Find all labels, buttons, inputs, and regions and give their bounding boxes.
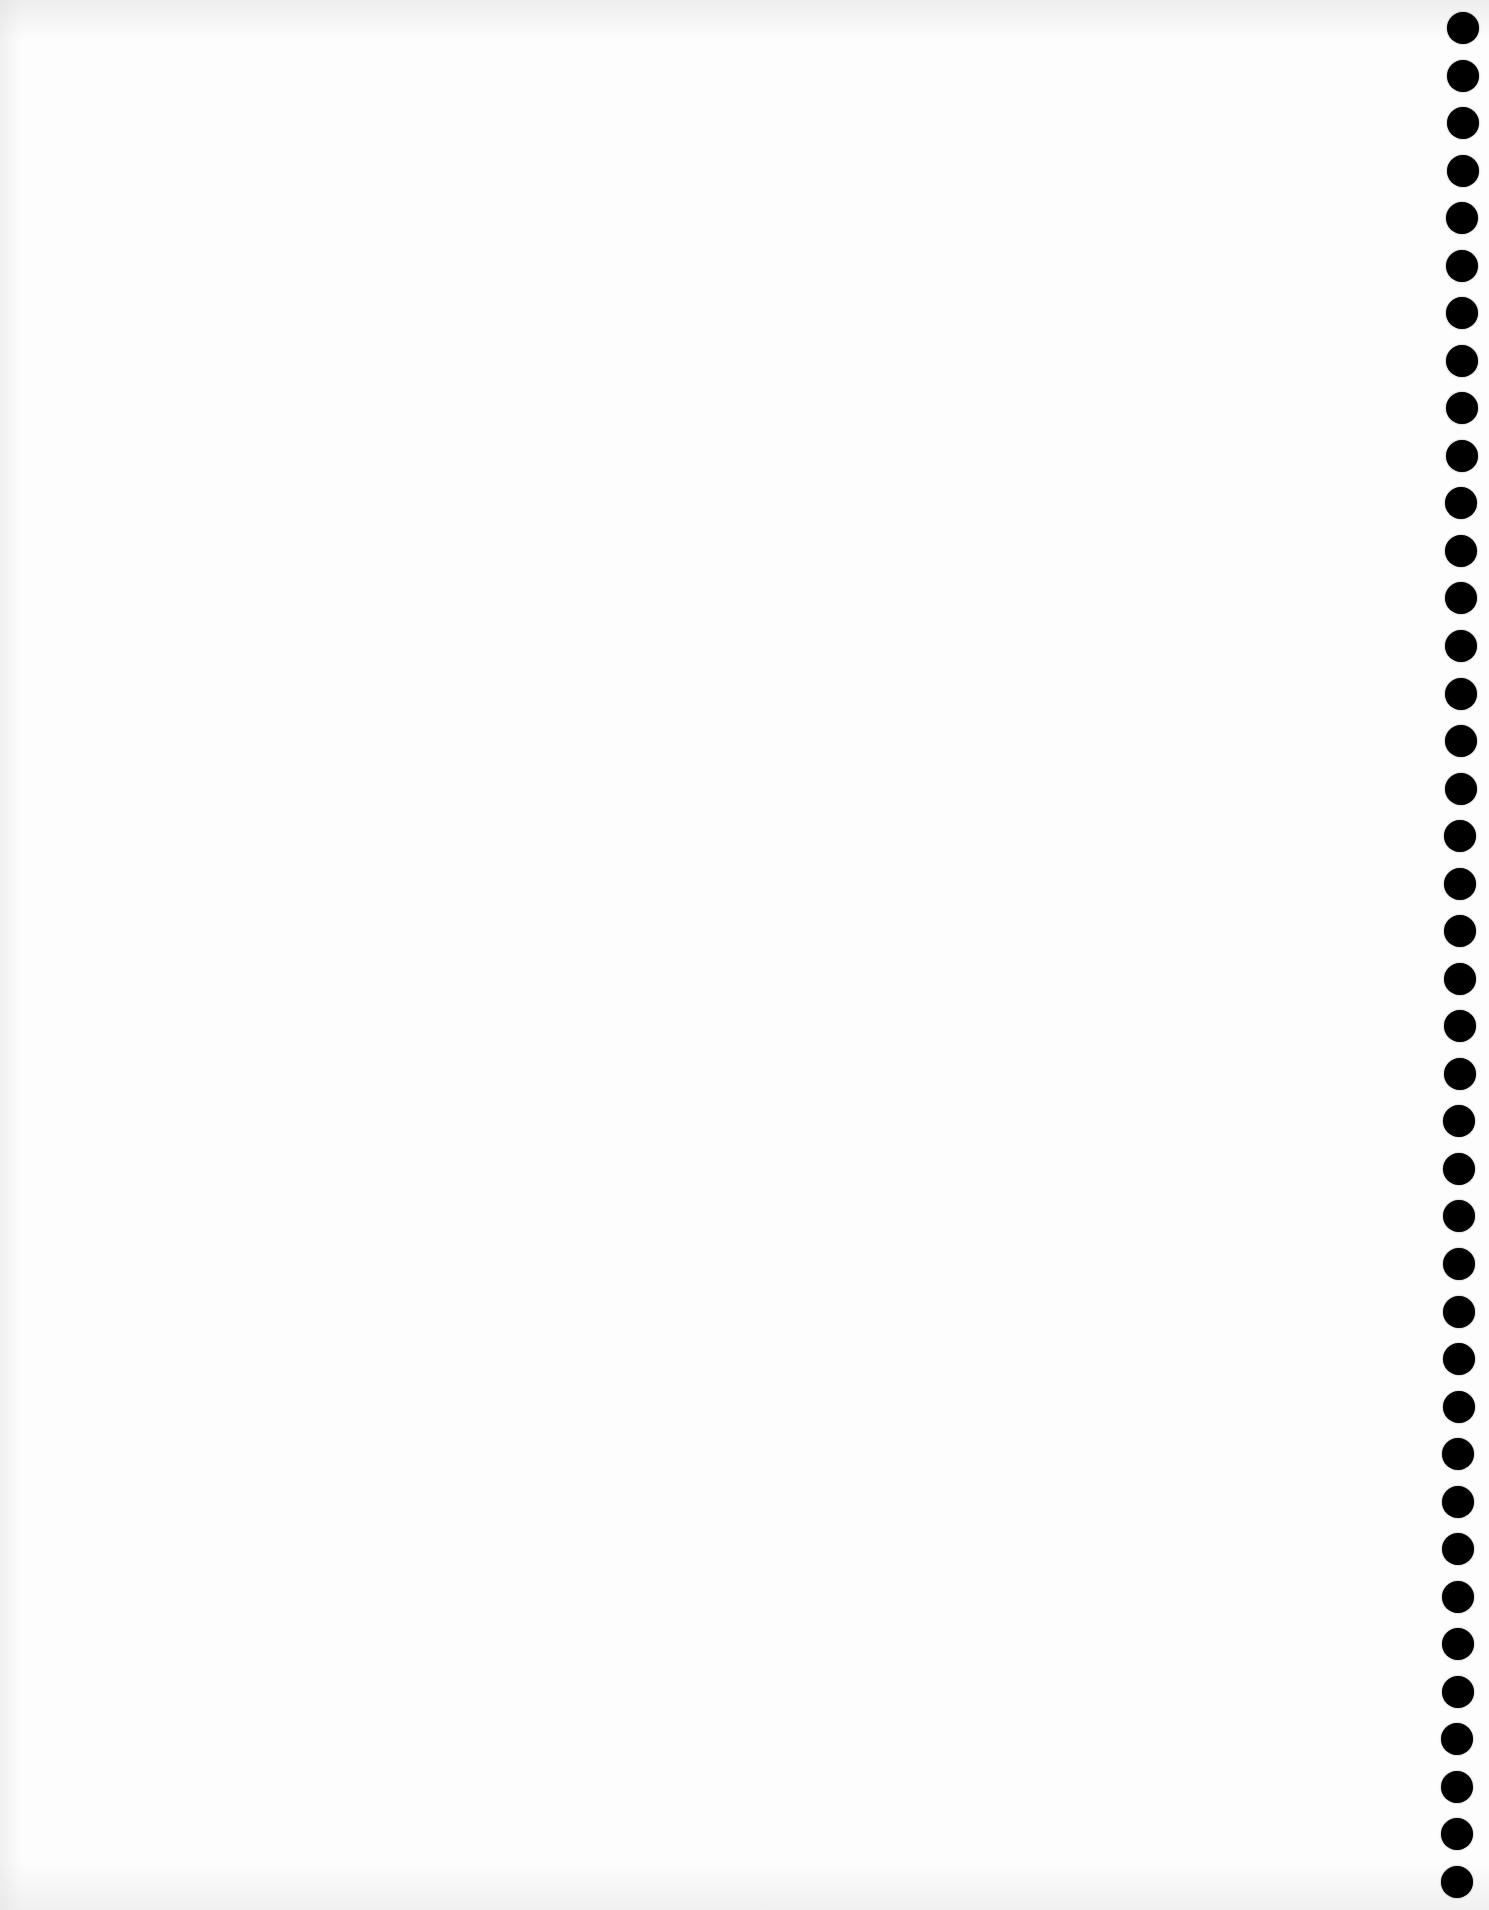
punch-hole [1445,725,1477,757]
punch-hole [1447,107,1479,139]
punch-hole [1446,345,1478,377]
punch-hole [1446,202,1478,234]
punch-hole [1443,1105,1475,1137]
blank-scanned-page [0,0,1489,1910]
punch-hole [1443,1296,1475,1328]
punch-hole-strip [1429,0,1489,1910]
punch-hole [1443,1391,1475,1423]
punch-hole [1445,630,1477,662]
punch-hole [1442,1533,1474,1565]
punch-hole [1441,1723,1473,1755]
punch-hole [1442,1581,1474,1613]
punch-hole [1443,1343,1475,1375]
punch-hole [1446,250,1478,282]
punch-hole [1445,773,1477,805]
punch-hole [1444,915,1476,947]
punch-hole [1445,535,1477,567]
punch-hole [1441,1866,1473,1898]
punch-hole [1444,963,1476,995]
punch-hole [1443,1153,1475,1185]
punch-hole [1443,1200,1475,1232]
punch-hole [1447,12,1479,44]
punch-hole [1446,297,1478,329]
punch-hole [1446,392,1478,424]
punch-hole [1443,1248,1475,1280]
punch-hole [1444,868,1476,900]
punch-hole [1446,440,1478,472]
punch-hole [1447,155,1479,187]
punch-hole [1442,1628,1474,1660]
punch-hole [1442,1676,1474,1708]
punch-hole [1445,678,1477,710]
punch-hole [1445,487,1477,519]
punch-hole [1441,1771,1473,1803]
punch-hole [1441,1818,1473,1850]
punch-hole [1444,820,1476,852]
punch-hole [1445,582,1477,614]
punch-hole [1444,1010,1476,1042]
punch-hole [1442,1486,1474,1518]
punch-hole [1444,1058,1476,1090]
punch-hole [1442,1438,1474,1470]
punch-hole [1447,60,1479,92]
